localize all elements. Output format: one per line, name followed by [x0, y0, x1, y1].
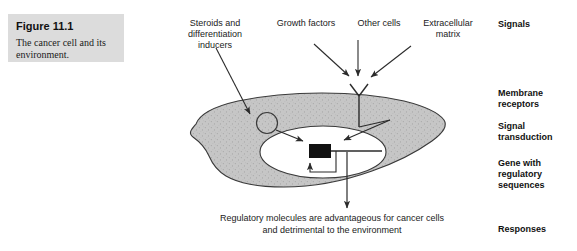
- gene-box: [309, 144, 331, 158]
- cell-diagram: [0, 0, 577, 251]
- figure-container: Figure 11.1 The cancer cell and its envi…: [0, 0, 577, 251]
- arrow-growth-factors: [314, 44, 349, 76]
- arrow-extracellular-matrix: [371, 46, 411, 77]
